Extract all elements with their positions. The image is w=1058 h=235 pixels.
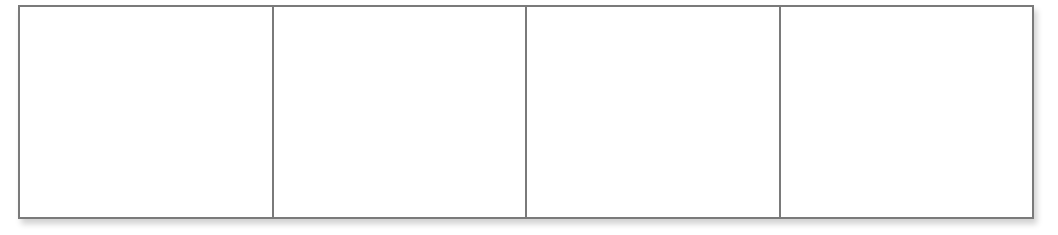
grid-cell-2: [274, 7, 528, 217]
grid-cell-3: [527, 7, 781, 217]
grid-cell-1: [20, 7, 274, 217]
grid-cell-4: [781, 7, 1033, 217]
four-cell-grid: [18, 5, 1034, 219]
